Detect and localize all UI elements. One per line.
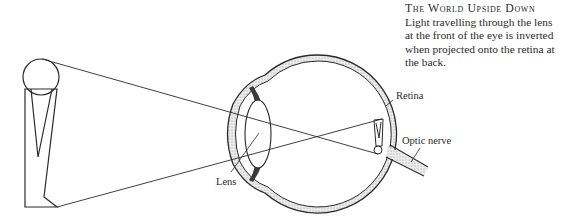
caption-line: Light travelling through the lens (405, 16, 576, 30)
caption-line: the back. (405, 56, 576, 70)
caption-line: when projected onto the retina at (405, 43, 576, 57)
inverted-figure (374, 119, 383, 154)
caption-line: at the front of the eye is inverted (405, 29, 576, 43)
optic-nerve-label: Optic nerve (402, 135, 451, 146)
upright-figure (23, 59, 59, 207)
caption: The World Upside Down Light travelling t… (405, 2, 576, 70)
figure-body (25, 89, 57, 207)
diagram-stage: Retina Optic nerve Lens The World Upside… (0, 0, 576, 216)
caption-title: The World Upside Down (405, 2, 576, 16)
retina-label: Retina (396, 90, 423, 101)
figure-arm (31, 89, 52, 157)
lens-label: Lens (216, 176, 236, 187)
